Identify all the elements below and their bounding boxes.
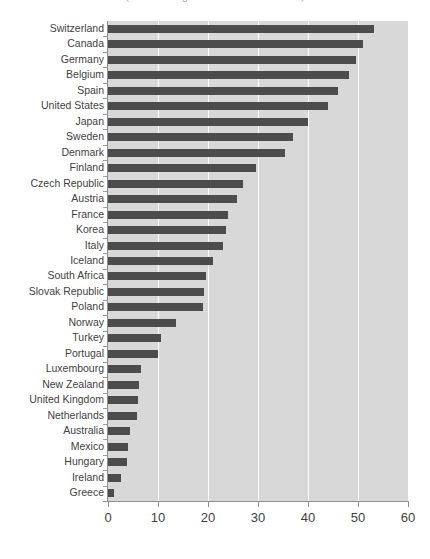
y-axis-tick [103, 67, 107, 68]
y-axis-tick [103, 424, 107, 425]
bar [108, 71, 349, 79]
x-axis-label: 50 [338, 510, 378, 525]
bar [108, 303, 203, 311]
category-axis-labels: SwitzerlandCanadaGermanyBelgiumSpainUnit… [0, 21, 104, 501]
x-axis-tick [158, 502, 159, 507]
bar [108, 381, 139, 389]
bar [108, 334, 161, 342]
category-label: Portugal [0, 348, 104, 359]
category-label: Finland [0, 162, 104, 173]
category-label: Slovak Republic [0, 286, 104, 297]
y-axis-tick [103, 238, 107, 239]
y-axis-tick [103, 486, 107, 487]
category-label: Canada [0, 38, 104, 49]
y-axis-tick [103, 393, 107, 394]
category-label: Luxembourg [0, 363, 104, 374]
bar [108, 211, 228, 219]
category-label: Spain [0, 85, 104, 96]
bar [108, 257, 213, 265]
category-label: United States [0, 100, 104, 111]
category-label: Korea [0, 224, 104, 235]
category-label: South Africa [0, 270, 104, 281]
y-axis-tick [103, 470, 107, 471]
x-axis-tick [258, 502, 259, 507]
bar [108, 164, 256, 172]
y-axis-tick [103, 501, 107, 502]
category-label: Turkey [0, 332, 104, 343]
y-axis-tick [103, 52, 107, 53]
bar [108, 412, 137, 420]
category-label: Denmark [0, 147, 104, 158]
y-axis-tick [103, 222, 107, 223]
bar [108, 118, 308, 126]
y-axis-tick [103, 160, 107, 161]
x-axis-tick [108, 502, 109, 507]
bars-layer [108, 21, 408, 501]
category-label: Czech Republic [0, 178, 104, 189]
category-label: France [0, 209, 104, 220]
bar-chart: (Percent of Wage/Inflation Rate Indexed … [0, 0, 430, 559]
bar [108, 102, 328, 110]
y-axis-tick [103, 362, 107, 363]
x-axis-tick [208, 502, 209, 507]
bar [108, 195, 237, 203]
y-axis-tick [103, 269, 107, 270]
bar [108, 350, 158, 358]
bar [108, 365, 141, 373]
category-label: Switzerland [0, 23, 104, 34]
y-axis-tick [103, 331, 107, 332]
bar [108, 226, 226, 234]
category-label: United Kingdom [0, 394, 104, 405]
y-axis-tick [103, 207, 107, 208]
y-axis-tick [103, 315, 107, 316]
bar [108, 489, 114, 497]
x-axis-label: 10 [138, 510, 178, 525]
category-label: Germany [0, 54, 104, 65]
y-axis-tick [103, 300, 107, 301]
x-axis-label: 20 [188, 510, 228, 525]
bar [108, 40, 363, 48]
bar [108, 272, 206, 280]
category-label: Norway [0, 317, 104, 328]
bar [108, 443, 128, 451]
chart-title: (Percent of Wage/Inflation Rate Indexed … [0, 0, 430, 2]
y-axis-tick [103, 253, 107, 254]
category-label: Netherlands [0, 410, 104, 421]
x-axis-label: 40 [288, 510, 328, 525]
category-label: Australia [0, 425, 104, 436]
y-axis-tick [103, 455, 107, 456]
category-label: Belgium [0, 69, 104, 80]
bar [108, 149, 285, 157]
y-axis-tick [103, 439, 107, 440]
category-label: Japan [0, 116, 104, 127]
bar [108, 180, 243, 188]
y-axis-tick [103, 98, 107, 99]
y-axis-tick [103, 36, 107, 37]
x-axis-tick [358, 502, 359, 507]
bar [108, 25, 374, 33]
category-label: Iceland [0, 255, 104, 266]
x-axis-tick [408, 502, 409, 507]
bar [108, 87, 338, 95]
x-axis-label: 60 [388, 510, 428, 525]
category-label: Italy [0, 240, 104, 251]
bar [108, 319, 176, 327]
y-axis-tick [103, 284, 107, 285]
y-axis-tick [103, 176, 107, 177]
bar [108, 133, 293, 141]
bar [108, 474, 121, 482]
bar [108, 288, 204, 296]
category-label: New Zealand [0, 379, 104, 390]
y-axis-tick [103, 377, 107, 378]
plot-area [108, 21, 409, 502]
y-axis-tick [103, 346, 107, 347]
x-axis-label: 30 [238, 510, 278, 525]
x-axis-tick [308, 502, 309, 507]
category-label: Hungary [0, 456, 104, 467]
bar [108, 396, 138, 404]
category-label: Greece [0, 487, 104, 498]
y-axis-tick [103, 408, 107, 409]
y-axis-tick [103, 191, 107, 192]
category-label: Mexico [0, 441, 104, 452]
category-label: Sweden [0, 131, 104, 142]
